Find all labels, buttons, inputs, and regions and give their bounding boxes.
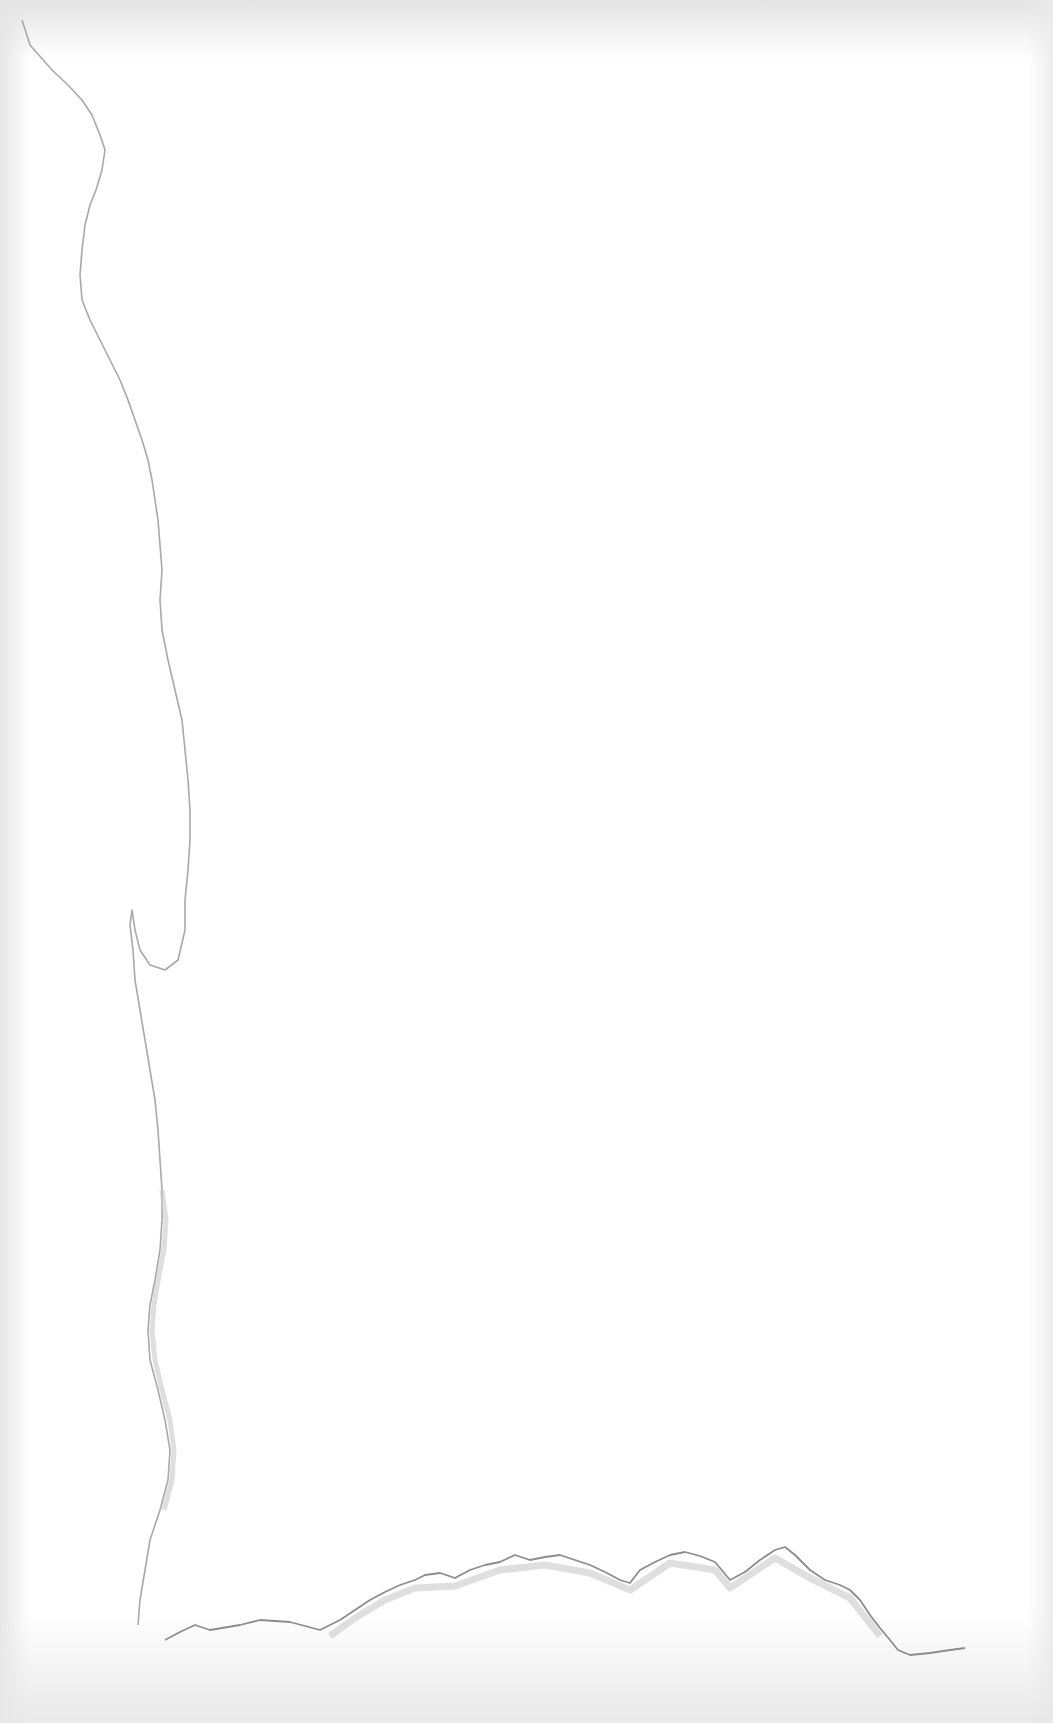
bottom-tear-line: [165, 1547, 965, 1655]
bottom-tear-shadow: [330, 1558, 880, 1636]
left-tear-line: [22, 20, 190, 1625]
tear-lines: [0, 0, 1053, 1723]
torn-paper-background: [0, 0, 1053, 1723]
left-tear-shadow: [152, 1190, 174, 1510]
